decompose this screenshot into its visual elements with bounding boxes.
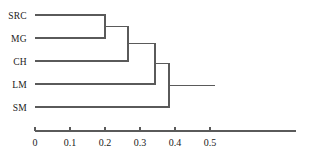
leaf-label-sm: SM: [13, 103, 28, 113]
tick-label-0-1: 0.1: [64, 137, 77, 148]
link-cluster1-ch: [35, 27, 128, 62]
link-src-mg: [35, 15, 105, 38]
dendrogram-figure: SRC MG CH LM SM 0 0.1 0.2 0.3 0.4: [0, 0, 310, 155]
x-axis: 0 0.1 0.2 0.3 0.4 0.5: [33, 127, 297, 148]
tick-label-0: 0: [33, 137, 38, 148]
tick-label-0-2: 0.2: [99, 137, 112, 148]
tick-label-0-3: 0.3: [134, 137, 147, 148]
leaf-label-lm: LM: [12, 80, 27, 90]
dendrogram-links: [35, 15, 215, 107]
leaf-label-ch: CH: [13, 57, 27, 67]
link-cluster2-lm: [35, 44, 155, 84]
tick-label-0-5: 0.5: [204, 137, 217, 148]
leaf-label-mg: MG: [11, 34, 27, 44]
leaf-labels: SRC MG CH LM SM: [8, 11, 27, 113]
tick-label-0-4: 0.4: [169, 137, 182, 148]
leaf-label-src: SRC: [8, 11, 27, 21]
link-cluster3-sm: [35, 64, 169, 107]
dendrogram-plot: SRC MG CH LM SM 0 0.1 0.2 0.3 0.4: [0, 0, 310, 155]
